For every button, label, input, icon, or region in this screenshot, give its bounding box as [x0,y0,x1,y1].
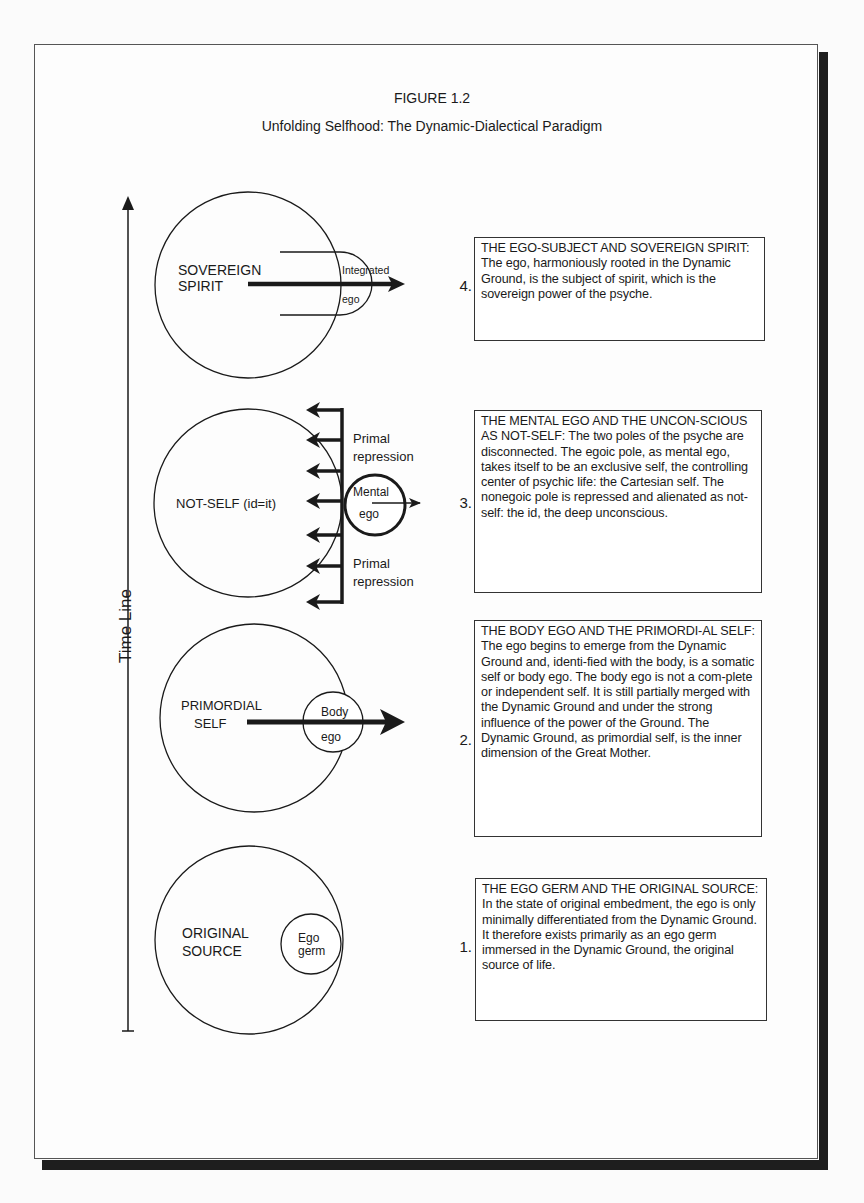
stage-number-2: 2. [452,731,472,748]
stage-3-diagram: NOT-SELF (id=it) Mental ego Primal repre… [154,402,420,610]
body-ego-label-2: ego [321,730,341,744]
ego-germ-label-1: Ego [298,931,320,945]
stage-4-description: THE EGO-SUBJECT AND SOVEREIGN SPIRIT: Th… [474,237,765,341]
stage-3-description: THE MENTAL EGO AND THE UNCON-SCIOUS AS N… [474,410,762,593]
primordial-self-label-1: PRIMORDIAL [181,698,262,713]
primal-repression-top-2: repression [353,449,414,464]
integrated-ego-label-2: ego [342,293,360,305]
sovereign-spirit-label-2: SPIRIT [178,278,224,294]
stage-2-diagram: PRIMORDIAL SELF Body ego [160,624,405,812]
mental-ego-circle [345,475,405,535]
timeline-label: Time Line [116,581,136,671]
body-ego-label-1: Body [321,705,348,719]
stage-4-diagram: SOVEREIGN SPIRIT Integrated ego [155,192,405,378]
stage-number-1: 1. [452,938,472,955]
mental-ego-label-2: ego [359,507,379,521]
stage-2-description: THE BODY EGO AND THE PRIMORDI-AL SELF: T… [474,620,762,837]
original-source-label-2: SOURCE [182,943,242,959]
integrated-ego-label-1: Integrated [342,264,389,276]
stage-1-description: THE EGO GERM AND THE ORIGINAL SOURCE: In… [475,878,767,1021]
stage-1-diagram: ORIGINAL SOURCE Ego germ [155,846,343,1034]
sovereign-spirit-label-1: SOVEREIGN [178,262,261,278]
ego-germ-label-2: germ [298,944,325,958]
primal-repression-bottom-2: repression [353,574,414,589]
stage-number-4: 4. [452,277,472,294]
mental-ego-label-1: Mental [353,485,389,499]
original-source-label-1: ORIGINAL [182,925,249,941]
not-self-label: NOT-SELF (id=it) [176,496,276,511]
primal-repression-top-1: Primal [353,431,390,446]
timeline-arrowhead-icon [122,196,134,210]
stage-number-3: 3. [452,494,472,511]
primordial-self-label-2: SELF [194,716,227,731]
primal-repression-bottom-1: Primal [353,556,390,571]
